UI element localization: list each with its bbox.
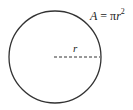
area-formula: A = πr2 (90, 10, 125, 22)
formula-eq: = π (97, 9, 116, 23)
formula-exponent: 2 (121, 7, 125, 16)
radius-label: r (73, 43, 77, 54)
